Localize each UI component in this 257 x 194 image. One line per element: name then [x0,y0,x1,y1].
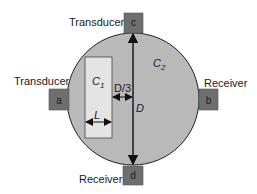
node-a-letter: a [56,95,62,106]
ultrasound-tomography-diagram: a b c d Transducer Transducer Receiver R… [0,0,257,194]
node-b-role-label: Receiver [204,77,248,89]
offset-label: D/3 [114,82,131,94]
node-c-letter: c [131,17,136,28]
width-label: L [94,109,100,121]
node-c-role-label: Transducer [69,16,125,28]
outer-medium-subscript: 2 [160,63,166,72]
node-d-role-label: Receiver [79,173,123,185]
outer-medium-symbol: C [153,57,161,69]
node-a: a [49,89,69,110]
diameter-label: D [136,102,144,114]
node-a-role-label: Transducer [14,75,70,87]
node-b: b [199,89,218,110]
inner-medium-subscript: 1 [100,81,104,90]
node-c: c [124,13,143,33]
node-b-letter: b [206,95,212,106]
inner-medium-symbol: C [92,75,100,87]
node-d: d [123,166,143,185]
node-d-letter: d [130,170,136,181]
inner-medium-rect [85,57,112,138]
